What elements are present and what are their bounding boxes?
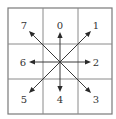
- arrow-shaft: [60, 35, 87, 62]
- arrow-down-right: [60, 62, 91, 93]
- arrow-up: [57, 32, 62, 62]
- direction-label-3: 3: [93, 94, 99, 105]
- arrow-left: [29, 59, 60, 64]
- direction-arrows: [29, 31, 91, 93]
- direction-label-1: 1: [93, 20, 99, 31]
- direction-label-6: 6: [20, 57, 26, 68]
- arrow-down-left: [29, 62, 60, 93]
- arrow-shaft: [33, 62, 60, 89]
- arrow-up-right: [60, 31, 91, 62]
- arrowhead-icon: [85, 59, 91, 64]
- direction-label-0: 0: [57, 20, 63, 31]
- direction-label-2: 2: [93, 57, 99, 68]
- arrow-right: [60, 59, 91, 64]
- arrow-up-left: [29, 31, 60, 62]
- direction-label-4: 4: [57, 94, 63, 105]
- arrowhead-icon: [57, 32, 62, 38]
- direction-label-7: 7: [21, 20, 27, 31]
- direction-label-5: 5: [21, 94, 27, 105]
- arrowhead-icon: [29, 59, 35, 64]
- arrow-shaft: [60, 62, 87, 89]
- arrow-shaft: [33, 35, 60, 62]
- arrowhead-icon: [57, 86, 62, 92]
- arrow-down: [57, 62, 62, 92]
- chain-code-diagram: 0 1 2 3 4 5 6 7: [0, 0, 116, 119]
